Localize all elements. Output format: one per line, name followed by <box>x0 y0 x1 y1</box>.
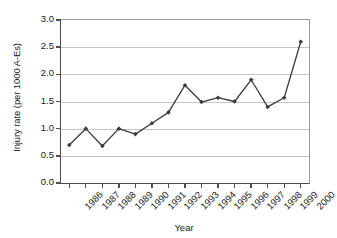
x-tick-label: 2000 <box>314 189 337 212</box>
x-axis-title: Year <box>60 222 308 233</box>
